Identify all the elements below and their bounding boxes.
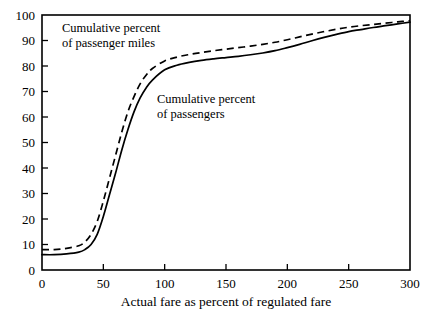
x-tick-label-300: 300	[400, 276, 420, 291]
chart-annotations: Cumulative percentof passenger milesCumu…	[62, 21, 256, 121]
chart-container: 0102030405060708090100 05010015020025030…	[0, 0, 432, 319]
annotation-cumulative-percent-passengers-line2: of passengers	[157, 107, 225, 121]
y-tick-label-0: 0	[29, 263, 36, 278]
chart-plot: 0102030405060708090100 05010015020025030…	[0, 0, 432, 319]
x-tick-label-150: 150	[216, 276, 236, 291]
y-tick-label-40: 40	[22, 161, 35, 176]
y-axis-tick-labels: 0102030405060708090100	[16, 8, 36, 278]
x-axis-tick-labels: 050100150200250300	[39, 276, 420, 291]
y-tick-label-80: 80	[22, 59, 35, 74]
x-tick-label-200: 200	[278, 276, 298, 291]
x-tick-label-50: 50	[97, 276, 110, 291]
y-tick-label-60: 60	[22, 110, 35, 125]
y-tick-label-100: 100	[16, 8, 36, 23]
x-tick-label-0: 0	[39, 276, 46, 291]
y-tick-label-30: 30	[22, 186, 35, 201]
x-axis-title: Actual fare as percent of regulated fare	[121, 294, 332, 309]
x-tick-label-100: 100	[155, 276, 175, 291]
x-axis-ticks	[103, 264, 348, 270]
y-tick-label-50: 50	[22, 135, 35, 150]
y-tick-label-20: 20	[22, 212, 35, 227]
y-tick-label-90: 90	[22, 33, 35, 48]
plot-frame	[42, 15, 410, 270]
annotation-cumulative-percent-passenger-miles-line2: of passenger miles	[62, 36, 155, 50]
y-tick-label-70: 70	[22, 84, 35, 99]
y-axis-ticks	[42, 41, 48, 245]
y-tick-label-10: 10	[22, 237, 35, 252]
x-tick-label-250: 250	[339, 276, 359, 291]
annotation-cumulative-percent-passenger-miles-line1: Cumulative percent	[62, 21, 161, 35]
series-line-cumulative-percent-of-passenger-miles	[42, 21, 410, 250]
annotation-cumulative-percent-passengers-line1: Cumulative percent	[157, 92, 256, 106]
